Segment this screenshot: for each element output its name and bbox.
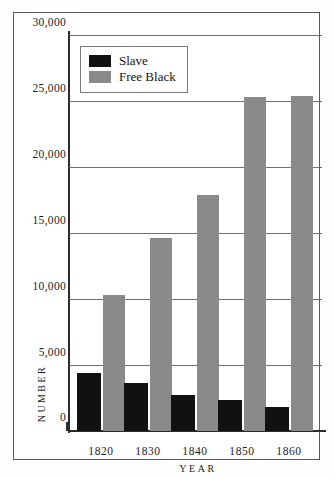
legend-label-slave: Slave <box>119 54 148 69</box>
bar-free-1860 <box>291 96 313 431</box>
y-tick-label-30000: 30,000 <box>14 16 66 28</box>
legend-item-free-black: Free Black <box>89 70 176 85</box>
bar-slave-1860 <box>265 407 289 431</box>
y-tick-label-10000: 10,000 <box>14 280 66 292</box>
bar-slave-1850 <box>218 400 242 431</box>
bar-free-1830 <box>150 238 172 431</box>
bar-slave-1830 <box>124 383 148 431</box>
x-tick-label-1830: 1830 <box>135 445 160 457</box>
chart-page: 30,000 25,000 20,000 15,000 10,000 5,000… <box>0 0 334 478</box>
y-tick-label-20000: 20,000 <box>14 148 66 160</box>
legend-label-free-black: Free Black <box>119 70 176 85</box>
bar-free-1840 <box>197 195 219 431</box>
bar-free-1850 <box>244 97 266 431</box>
bar-free-1820 <box>103 295 125 431</box>
x-tick-label-1860: 1860 <box>276 445 301 457</box>
y-tick-label-25000: 25,000 <box>14 82 66 94</box>
y-tick-label-5000: 5,000 <box>14 346 66 358</box>
x-tick-label-1840: 1840 <box>182 445 207 457</box>
bars-layer <box>69 35 322 431</box>
y-tick-label-15000: 15,000 <box>14 214 66 226</box>
x-tick-label-1820: 1820 <box>88 445 113 457</box>
chart-frame: 30,000 25,000 20,000 15,000 10,000 5,000… <box>13 12 320 460</box>
bar-slave-1840 <box>171 395 195 431</box>
x-tick-label-1850: 1850 <box>229 445 254 457</box>
x-axis-title: YEAR <box>69 463 327 474</box>
y-axis-zero-tick <box>66 422 68 431</box>
x-axis-tick-labels: 1820 1830 1840 1850 1860 <box>69 445 327 461</box>
legend-swatch-free-black-icon <box>89 71 111 83</box>
legend-item-slave: Slave <box>89 54 176 69</box>
bar-slave-1820 <box>77 373 101 431</box>
legend-swatch-slave-icon <box>89 55 111 67</box>
y-axis-title: NUMBER <box>36 365 47 422</box>
chart-legend: Slave Free Black <box>80 46 188 93</box>
